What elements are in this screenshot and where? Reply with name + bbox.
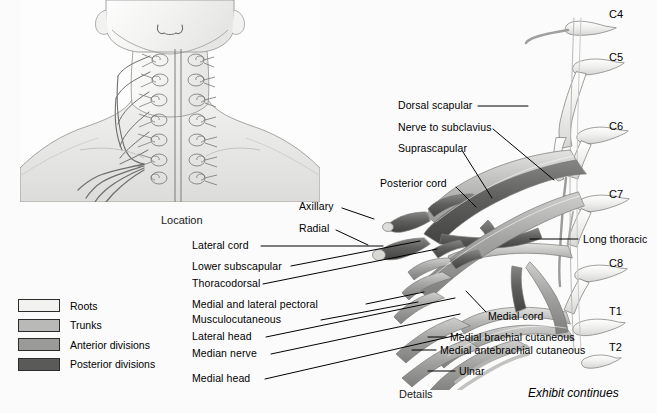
label-musculocutaneous: Musculocutaneous bbox=[192, 314, 281, 325]
segment-label-t2: T2 bbox=[609, 341, 622, 353]
exhibit-continues-note: Exhibit continues bbox=[528, 386, 619, 400]
segment-label-c4: C4 bbox=[609, 8, 623, 20]
label-lateral-head: Lateral head bbox=[192, 331, 252, 342]
label-radial: Radial bbox=[299, 223, 329, 234]
legend-item-roots: Roots bbox=[18, 296, 155, 316]
label-ulnar: Ulnar bbox=[459, 366, 485, 377]
segment-label-t1: T1 bbox=[609, 305, 622, 317]
legend-label-posterior-divisions: Posterior divisions bbox=[70, 358, 155, 370]
label-thoracodorsal: Thoracodorsal bbox=[192, 278, 260, 289]
legend-swatch-trunks bbox=[18, 319, 60, 332]
legend-item-anterior-divisions: Anterior divisions bbox=[18, 335, 155, 355]
label-posterior-cord: Posterior cord bbox=[380, 178, 447, 189]
label-lower-subscapular: Lower subscapular bbox=[192, 261, 282, 272]
caption-details: Details bbox=[399, 388, 433, 400]
legend-swatch-posterior-divisions bbox=[18, 358, 60, 371]
segment-label-c6: C6 bbox=[609, 120, 623, 132]
label-axillary: Axillary bbox=[299, 201, 334, 212]
segment-label-c8: C8 bbox=[609, 257, 623, 269]
legend-swatch-roots bbox=[18, 299, 60, 312]
label-lateral-cord: Lateral cord bbox=[192, 240, 249, 251]
legend-label-roots: Roots bbox=[70, 300, 97, 312]
legend-item-trunks: Trunks bbox=[18, 316, 155, 336]
caption-location: Location bbox=[161, 214, 203, 226]
label-median-nerve: Median nerve bbox=[192, 348, 257, 359]
label-medial-brachial-cutaneous: Medial brachial cutaneous bbox=[450, 332, 575, 343]
label-medial-antebrachial-cutaneous: Medial antebrachial cutaneous bbox=[440, 345, 585, 356]
location-inset-illustration bbox=[20, 0, 320, 202]
legend-label-trunks: Trunks bbox=[70, 319, 102, 331]
legend-swatch-anterior-divisions bbox=[18, 338, 60, 351]
label-dorsal-scapular: Dorsal scapular bbox=[398, 100, 472, 111]
label-medial-head: Medial head bbox=[192, 373, 250, 384]
label-medial-cord: Medial cord bbox=[488, 311, 543, 322]
legend: Roots Trunks Anterior divisions Posterio… bbox=[18, 296, 155, 374]
segment-label-c5: C5 bbox=[609, 51, 623, 63]
label-long-thoracic: Long thoracic bbox=[583, 234, 647, 245]
brachial-plexus-exhibit: Dorsal scapular Nerve to subclavius Supr… bbox=[0, 0, 657, 413]
label-nerve-to-subclavius: Nerve to subclavius bbox=[398, 122, 492, 133]
legend-label-anterior-divisions: Anterior divisions bbox=[70, 339, 150, 351]
segment-label-c7: C7 bbox=[609, 188, 623, 200]
label-suprascapular: Suprascapular bbox=[398, 143, 467, 154]
label-medial-and-lateral-pectoral: Medial and lateral pectoral bbox=[192, 299, 318, 310]
legend-item-posterior-divisions: Posterior divisions bbox=[18, 355, 155, 375]
